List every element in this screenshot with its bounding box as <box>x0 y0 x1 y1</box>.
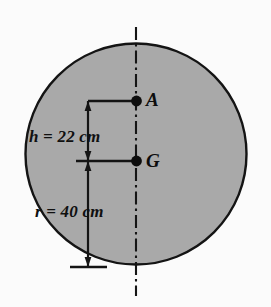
dimension-label-h-text: h = 22 cm <box>29 127 100 146</box>
dimension-label-r-text: r = 40 cm <box>35 202 104 221</box>
figure-diagram: h = 22 cm r = 40 cm A G <box>0 0 271 307</box>
dimension-label-r: r = 40 cm <box>35 203 104 220</box>
point-label-g: G <box>146 151 160 170</box>
dimension-arrow-r-bottom <box>85 257 92 267</box>
diagram-canvas <box>0 0 271 307</box>
point-marker-g <box>131 156 142 167</box>
point-label-a: A <box>146 90 159 109</box>
point-marker-a <box>131 96 142 107</box>
dimension-label-h: h = 22 cm <box>29 128 100 145</box>
